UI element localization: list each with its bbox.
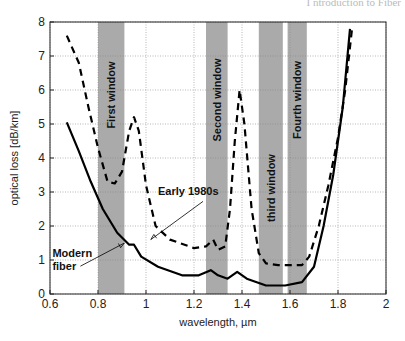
optical-loss-chart: First windowSecond windowthird windowFou… [0, 0, 405, 341]
annotation-label: Early 1980s [158, 185, 219, 197]
y-tick-label: 4 [38, 151, 45, 165]
annotation-label: fiber [52, 260, 77, 272]
y-tick-label: 7 [38, 49, 45, 63]
x-tick-label: 1 [143, 297, 150, 311]
annotation-arrow [151, 201, 203, 239]
x-tick-label: 2 [383, 297, 390, 311]
y-tick-label: 6 [38, 83, 45, 97]
y-tick-label: 0 [38, 287, 45, 301]
band-label: Fourth window [291, 60, 303, 139]
annotation-label: Modern [52, 247, 92, 259]
y-tick-label: 8 [38, 15, 45, 29]
x-axis-label: wavelength, µm [178, 316, 256, 328]
y-tick-label: 5 [38, 117, 45, 131]
annotations: Early 1980sModernfiber [52, 185, 218, 272]
band-label: Second window [211, 58, 223, 142]
x-tick-label: 1.6 [282, 297, 299, 311]
y-tick-label: 2 [38, 219, 45, 233]
x-tick-label: 1.8 [330, 297, 347, 311]
y-axis-label: optical loss [dB/km] [8, 111, 20, 206]
x-tick-label: 1.4 [234, 297, 251, 311]
x-tick-label: 0.8 [90, 297, 107, 311]
x-tick-label: 1.2 [186, 297, 203, 311]
y-tick-label: 3 [38, 185, 45, 199]
y-tick-label: 1 [38, 253, 45, 267]
band-label: First window [105, 61, 117, 129]
band-label: third window [265, 154, 277, 222]
